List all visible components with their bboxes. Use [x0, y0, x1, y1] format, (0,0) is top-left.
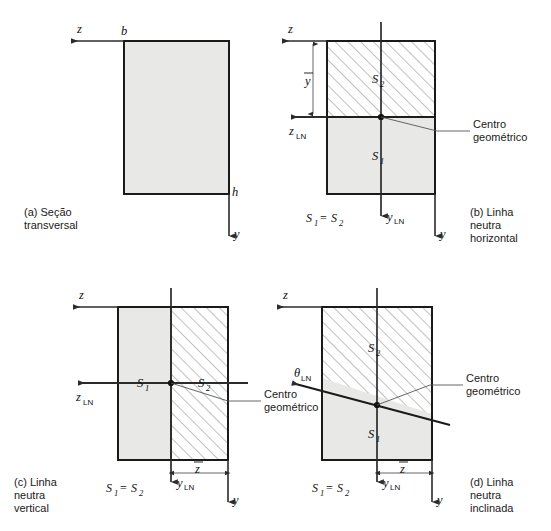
- panel-c-z-label: z: [78, 288, 84, 302]
- panel-b-area-bottom-symbol: S: [372, 149, 379, 163]
- panel-b-caption-line-2: neutra: [470, 219, 502, 231]
- panel-b-equality-sub1: 1: [314, 218, 318, 228]
- panel-a-cross-section: [124, 41, 229, 194]
- panel-b-z-neutral-subscript: LN: [296, 132, 306, 141]
- panel-c-caption-line-3: vertical: [14, 502, 49, 514]
- panel-c-z-neutral-symbol: z: [75, 390, 81, 404]
- panel-b-y-label: y: [438, 227, 446, 241]
- panel-b-equality-operator: =: [320, 211, 327, 225]
- panel-d-caption-line-3: inclinada: [470, 502, 514, 514]
- panel-d-equality-s2: S: [337, 481, 343, 495]
- panel-c-area-left-subscript: 1: [145, 383, 149, 393]
- panel-d-area-bottom-subscript: 1: [376, 434, 380, 444]
- panel-d-caption-line-1: (d) Linha: [470, 476, 514, 488]
- figure-root: z y b h (a) Seção transversal z y z LN y…: [0, 0, 551, 531]
- figure-background: [0, 0, 551, 531]
- panel-a-caption-line-1: (a) Seção: [24, 206, 72, 218]
- panel-d-caption-line-2: neutra: [470, 489, 502, 501]
- panel-d-zbar-symbol: z: [399, 462, 405, 476]
- panel-d-area-bottom-symbol: S: [368, 427, 375, 441]
- panel-d-z-label: z: [282, 288, 288, 302]
- panel-a-caption-line-2: transversal: [24, 219, 78, 231]
- panel-c-z-neutral-subscript: LN: [83, 398, 93, 407]
- panel-c-centroid-callout-line-1: Centro: [264, 388, 297, 400]
- panel-c-area-left-symbol: S: [137, 376, 144, 390]
- panel-b-caption-line-1: (b) Linha: [470, 206, 514, 218]
- panel-a-height-label: h: [232, 185, 238, 199]
- panel-d-area-top-symbol: S: [368, 341, 375, 355]
- panel-c-caption-line-1: (c) Linha: [14, 476, 58, 488]
- panel-b-caption-line-3: horizontal: [470, 232, 518, 244]
- panel-d-centroid-callout-line-2: geométrico: [466, 385, 520, 397]
- panel-d-y-neutral-symbol: y: [381, 476, 389, 490]
- panel-b-z-label: z: [287, 22, 293, 36]
- panel-b-equality-s1: S: [306, 211, 312, 225]
- panel-d-theta-symbol: θ: [294, 366, 300, 380]
- panel-c-zbar-symbol: z: [194, 462, 200, 476]
- panel-b-y-neutral-symbol: y: [385, 210, 393, 224]
- panel-d-equality-s1: S: [312, 481, 318, 495]
- panel-d-y-neutral-subscript: LN: [390, 483, 400, 492]
- panel-c-y-label: y: [231, 493, 239, 507]
- panel-c-equality-operator: =: [120, 481, 127, 495]
- panel-a-z-label: z: [76, 22, 82, 36]
- panel-d-equality-sub1: 1: [320, 488, 324, 498]
- panel-b-z-neutral-symbol: z: [288, 124, 294, 138]
- panel-c-caption-line-2: neutra: [14, 489, 46, 501]
- panel-b-area-top-symbol: S: [372, 72, 379, 86]
- panel-d-theta-subscript: LN: [301, 374, 311, 383]
- panel-c-equality-sub1: 1: [114, 488, 118, 498]
- panel-c-area-right-symbol: S: [198, 376, 205, 390]
- panel-c-equality-s2: S: [131, 481, 137, 495]
- panel-d-centroid-callout-line-1: Centro: [466, 372, 499, 384]
- neutral-axis-figure: z y b h (a) Seção transversal z y z LN y…: [0, 0, 551, 531]
- panel-b-ybar-symbol: y: [303, 74, 311, 88]
- panel-d-equality-operator: =: [326, 481, 333, 495]
- panel-b-centroid-callout-line-1: Centro: [473, 118, 506, 130]
- panel-a-width-label: b: [121, 24, 127, 38]
- panel-a-y-label: y: [232, 227, 240, 241]
- panel-c-y-neutral-symbol: y: [175, 476, 183, 490]
- panel-c-equality-s1: S: [106, 481, 112, 495]
- panel-c-y-neutral-subscript: LN: [184, 483, 194, 492]
- panel-d-y-label: y: [435, 493, 443, 507]
- panel-b-y-neutral-subscript: LN: [394, 217, 404, 226]
- panel-c-centroid-callout-line-2: geométrico: [264, 401, 318, 413]
- panel-b-centroid-callout-line-2: geométrico: [473, 131, 527, 143]
- panel-b-area-bottom-subscript: 1: [380, 156, 384, 166]
- panel-b-equality-s2: S: [331, 211, 337, 225]
